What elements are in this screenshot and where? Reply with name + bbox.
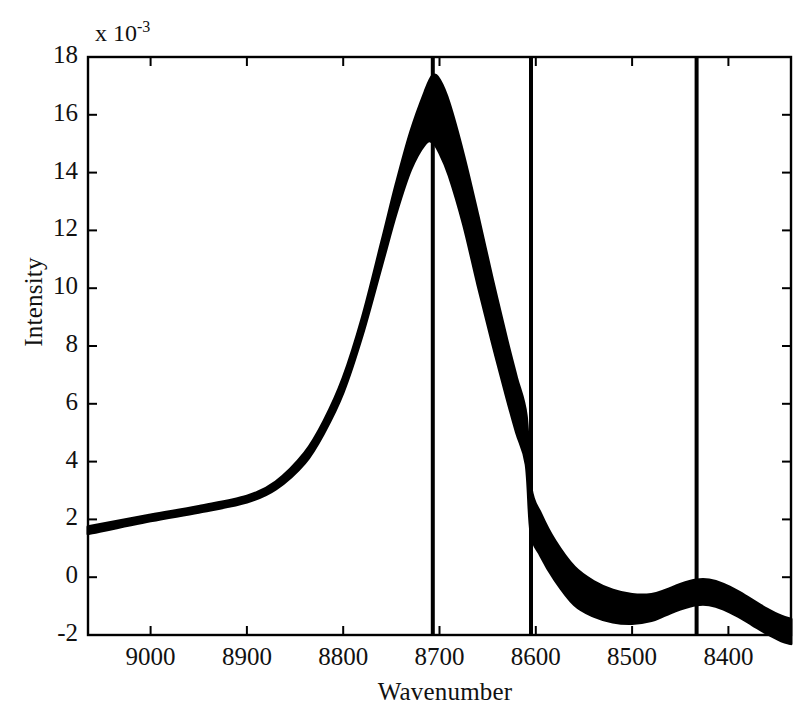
- spectrum-trace: [88, 104, 791, 629]
- y-tick-label: 4: [18, 446, 78, 474]
- y-axis-exponent-power: -3: [137, 18, 150, 35]
- x-tick-label: 8500: [582, 643, 682, 671]
- spectrum-trace: [88, 114, 791, 633]
- spectrum-trace: [88, 123, 791, 637]
- y-tick-label: 8: [18, 330, 78, 358]
- y-tick-label: -2: [18, 619, 78, 647]
- y-tick-label: 12: [18, 214, 78, 242]
- vertical-reference-lines: [433, 57, 697, 635]
- y-tick-label: 6: [18, 388, 78, 416]
- y-tick-label: 18: [18, 41, 78, 69]
- x-tick-label: 8400: [678, 643, 778, 671]
- x-tick-label: 8700: [390, 643, 490, 671]
- spectrum-band: [88, 75, 791, 644]
- y-axis-exponent-label: x 10-3: [95, 18, 150, 47]
- y-tick-label: 14: [18, 157, 78, 185]
- plot-canvas: [0, 0, 809, 716]
- y-tick-label: 16: [18, 99, 78, 127]
- x-tick-label: 9000: [101, 643, 201, 671]
- x-tick-label: 8800: [293, 643, 393, 671]
- spectrum-trace: [88, 95, 791, 627]
- spectrum-figure: x 10-3 Intensity Wavenumber 181614121086…: [0, 0, 809, 716]
- x-tick-label: 8900: [197, 643, 297, 671]
- x-axis-title: Wavenumber: [265, 678, 625, 706]
- x-tick-label: 8600: [486, 643, 586, 671]
- spectrum-band-fill: [88, 75, 791, 644]
- y-axis-exponent-mantissa: x 10: [95, 20, 137, 46]
- spectrum-trace: [88, 85, 791, 623]
- y-tick-label: 10: [18, 272, 78, 300]
- y-tick-label: 0: [18, 561, 78, 589]
- spectrum-trace: [88, 132, 791, 640]
- y-tick-label: 2: [18, 503, 78, 531]
